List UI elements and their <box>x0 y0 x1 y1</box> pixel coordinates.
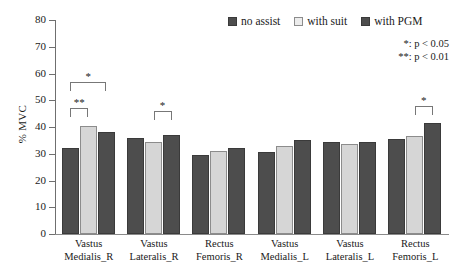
bar <box>127 138 144 234</box>
y-axis-tick-label: 40 <box>24 121 46 132</box>
bar-group <box>258 20 312 234</box>
legend-swatch-icon <box>294 17 303 26</box>
x-axis-label-line2: Femoris_L <box>367 251 455 264</box>
y-axis-tick <box>49 127 56 128</box>
y-axis-tick-label: 20 <box>24 175 46 186</box>
pvalue-note-1: *: p < 0.05 <box>398 38 449 51</box>
bar-group <box>192 20 246 234</box>
bar <box>258 152 275 234</box>
bar <box>192 155 209 234</box>
legend-item-label: no assist <box>241 15 280 27</box>
legend-swatch-icon <box>361 17 370 26</box>
pvalue-note-2: **: p < 0.01 <box>398 51 449 64</box>
x-axis-label-line1: Vastus <box>336 238 363 249</box>
legend-item[interactable]: with PGM <box>361 15 422 27</box>
y-axis-tick-label: 70 <box>24 41 46 52</box>
significance-bracket <box>154 111 172 120</box>
bar <box>341 144 358 234</box>
legend-swatch-icon <box>228 17 237 26</box>
y-axis-tick <box>49 154 56 155</box>
y-axis-tick <box>49 207 56 208</box>
y-axis-tick-label: 50 <box>24 94 46 105</box>
legend-item[interactable]: no assist <box>228 15 280 27</box>
plot-area: ***** <box>56 20 448 234</box>
pvalue-notes: *: p < 0.05 **: p < 0.01 <box>398 38 449 63</box>
significance-label: * <box>144 100 182 110</box>
bar <box>210 151 227 234</box>
legend-item-label: with PGM <box>374 15 422 27</box>
bar <box>406 136 423 234</box>
x-axis-label-line1: Rectus <box>205 238 234 249</box>
bar <box>323 142 340 234</box>
y-axis-tick-label: 60 <box>24 68 46 79</box>
y-axis-tick <box>49 47 56 48</box>
legend-item-label: with suit <box>307 15 347 27</box>
x-axis-label: RectusFemoris_L <box>367 238 455 263</box>
y-axis-tick-label: 10 <box>24 201 46 212</box>
significance-label: * <box>405 95 443 105</box>
legend-item[interactable]: with suit <box>294 15 347 27</box>
significance-bracket <box>70 108 88 117</box>
y-axis-tick <box>49 181 56 182</box>
bar <box>359 142 376 234</box>
y-axis-tick <box>49 74 56 75</box>
significance-label: * <box>60 71 116 81</box>
bar-group <box>127 20 181 234</box>
x-axis-label-line1: Rectus <box>401 238 430 249</box>
bar-group <box>323 20 377 234</box>
bar <box>424 123 441 234</box>
y-axis-tick-label: 30 <box>24 148 46 159</box>
bar <box>388 139 405 234</box>
x-axis-label-line1: Vastus <box>271 238 298 249</box>
y-axis-tick <box>49 100 56 101</box>
x-axis-label-line1: Vastus <box>75 238 102 249</box>
significance-bracket <box>415 106 433 115</box>
x-axis-line <box>55 234 449 235</box>
bar <box>145 142 162 234</box>
bar-group <box>62 20 116 234</box>
bar <box>62 148 79 234</box>
legend: no assistwith suitwith PGM <box>228 15 422 27</box>
significance-label: ** <box>60 97 98 107</box>
bar <box>163 135 180 234</box>
bar <box>228 148 245 234</box>
bar <box>276 146 293 234</box>
bar <box>98 132 115 234</box>
bar <box>294 140 311 234</box>
y-axis-tick <box>49 20 56 21</box>
x-axis-label-line1: Vastus <box>140 238 167 249</box>
y-axis-tick-label: 80 <box>24 14 46 25</box>
bar <box>80 126 97 234</box>
significance-bracket <box>70 82 106 91</box>
bar-chart: % MVC 01020304050607080 ***** VastusMedi… <box>0 0 455 280</box>
